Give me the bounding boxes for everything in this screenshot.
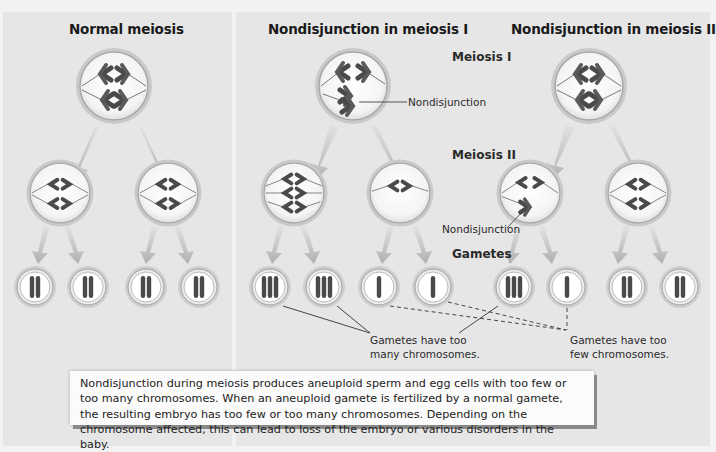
gametes-normal xyxy=(14,266,220,308)
cell-normal-mid-right xyxy=(135,160,202,227)
cell-normal-parent xyxy=(76,48,152,124)
too-many-line-1: Gametes have too xyxy=(370,333,462,347)
cell-nd2-parent xyxy=(551,48,627,124)
cell-normal-mid-left xyxy=(27,160,94,227)
callout-nondisjunction-meiosis-1: Nondisjunction xyxy=(408,95,486,109)
title-nondisjunction-meiosis-2: Nondisjunction in meiosis II xyxy=(511,21,716,37)
callout-nondisjunction-meiosis-2: Nondisjunction xyxy=(442,222,520,236)
caption-box: Nondisjunction during meiosis produces a… xyxy=(70,371,594,425)
gametes-nd2 xyxy=(493,266,701,308)
too-many-line-2: many chromosomes. xyxy=(370,347,462,361)
stage-label-meiosis-1: Meiosis I xyxy=(452,50,511,64)
callout-too-many-chromosomes: Gametes have too many chromosomes. xyxy=(370,333,462,361)
title-nondisjunction-meiosis-1: Nondisjunction in meiosis I xyxy=(268,21,468,37)
cell-nd2-mid-left xyxy=(497,160,564,227)
title-normal-meiosis: Normal meiosis xyxy=(69,21,184,37)
leader-lines-too-many xyxy=(283,306,498,333)
cell-nd2-mid-right xyxy=(605,160,672,227)
arrows xyxy=(32,124,668,264)
gametes-nd1 xyxy=(249,266,454,308)
cell-nd1-mid-right xyxy=(367,160,434,227)
leader-lines-too-few xyxy=(390,302,567,330)
stage-label-gametes: Gametes xyxy=(452,247,512,261)
too-few-line-1: Gametes have too xyxy=(570,333,669,347)
too-few-line-2: few chromosomes. xyxy=(570,347,669,361)
cell-nd1-mid-left xyxy=(261,160,328,227)
callout-too-few-chromosomes: Gametes have too few chromosomes. xyxy=(570,333,669,361)
stage-label-meiosis-2: Meiosis II xyxy=(452,148,516,162)
cell-nd1-parent xyxy=(315,48,407,124)
